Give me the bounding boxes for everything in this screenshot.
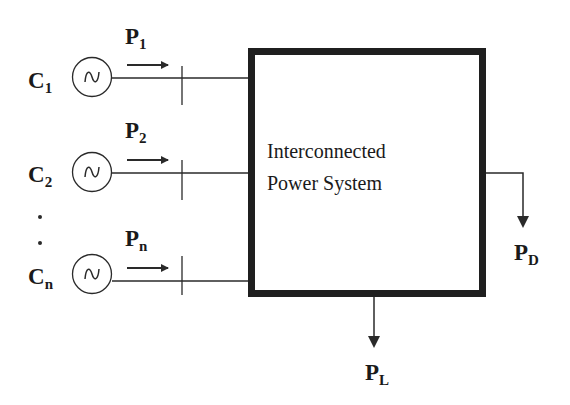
power-1-label: P1 (125, 24, 147, 52)
box-title-line2: Power System (267, 172, 382, 195)
generator-2-label: C2 (28, 162, 52, 190)
generator-n: Cn Pn (28, 226, 248, 295)
generator-1-label: C1 (28, 68, 52, 96)
demand-line (486, 173, 523, 218)
power-n-label: Pn (125, 226, 148, 254)
interconnected-power-system-box: Interconnected Power System (252, 52, 483, 294)
generator-n-label: Cn (28, 264, 54, 292)
power-2-label: P2 (125, 118, 147, 146)
sine-wave-icon (73, 153, 112, 192)
power-system-diagram: Interconnected Power System C1 P1 C2 P2 … (0, 0, 570, 405)
sine-wave-icon (73, 255, 112, 294)
power-demand-output: PD (486, 173, 539, 268)
power-loss-output: PL (365, 297, 389, 388)
ellipsis-dots (38, 215, 42, 245)
generator-2: C2 P2 (28, 118, 248, 200)
power-demand-label: PD (514, 240, 539, 268)
arrow-down-icon (368, 336, 380, 348)
arrow-down-icon (517, 216, 529, 228)
power-loss-label: PL (365, 360, 389, 388)
box-title-line1: Interconnected (267, 140, 386, 162)
sine-wave-icon (73, 58, 112, 97)
generator-1: C1 P1 (28, 24, 248, 105)
